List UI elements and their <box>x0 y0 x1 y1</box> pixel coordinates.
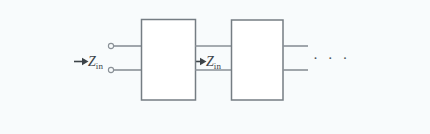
network-block-1 <box>142 20 196 101</box>
circuit-diagram: Zin Zin · · · <box>0 0 430 134</box>
impedance-subscript-mid: in <box>214 61 221 71</box>
terminal-circle-icon-top <box>108 43 113 48</box>
impedance-label-left: Zin <box>88 55 103 71</box>
impedance-symbol-mid: Z <box>206 54 214 69</box>
impedance-label-mid: Zin <box>206 55 221 71</box>
network-block-2 <box>232 20 284 100</box>
impedance-symbol-left: Z <box>88 54 96 69</box>
arrow-right-icon-left <box>74 58 89 65</box>
impedance-subscript-left: in <box>96 61 103 71</box>
terminal-circle-icon-bottom <box>108 67 113 72</box>
continuation-ellipsis: · · · <box>313 50 351 67</box>
